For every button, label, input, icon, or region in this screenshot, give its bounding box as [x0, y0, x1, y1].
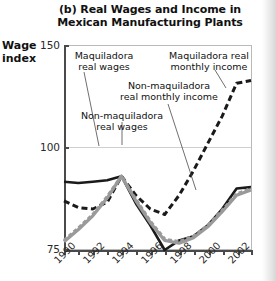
annotation-maquiladora-real-monthly-income: Maquiladora real monthly income	[166, 50, 252, 72]
leader-line-maquiladora-real-wages	[84, 72, 99, 146]
annotation-nonmaquiladora-real-monthly-income-line2: real monthly income	[113, 91, 225, 102]
leader-line-nonmaquiladora-real-monthly-income	[168, 104, 196, 190]
annotation-nonmaquiladora-real-monthly-income-line1: Non-maquiladora	[113, 80, 225, 91]
annotation-nonmaquiladora-real-wages: Non-maquiladora real wages	[72, 110, 172, 132]
annotation-maquiladora-real-monthly-income-line2: monthly income	[166, 61, 252, 72]
chart-series-layer	[0, 0, 276, 281]
annotation-maquiladora-real-wages: Maquiladora real wages	[68, 50, 140, 72]
annotation-maquiladora-real-monthly-income-line1: Maquiladora real	[166, 50, 252, 61]
annotation-nonmaquiladora-real-wages-line2: real wages	[72, 121, 172, 132]
annotation-nonmaquiladora-real-monthly-income: Non-maquiladora real monthly income	[113, 80, 225, 102]
annotation-maquiladora-real-wages-line1: Maquiladora	[68, 50, 140, 61]
page-edge-shadow	[262, 0, 276, 281]
chart-page: (b) Real Wages and Income in Mexican Man…	[0, 0, 276, 281]
annotation-maquiladora-real-wages-line2: real wages	[68, 61, 140, 72]
annotation-nonmaquiladora-real-wages-line1: Non-maquiladora	[72, 110, 172, 121]
